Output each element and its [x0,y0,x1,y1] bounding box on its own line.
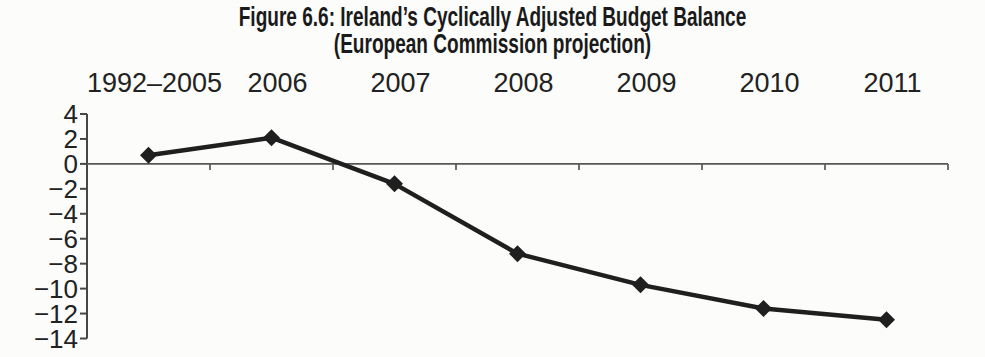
data-point-marker [878,311,895,328]
x-tick-label: 1992–2005 [87,68,222,98]
data-point-marker [263,129,280,146]
y-tick-label: −14 [34,324,78,354]
x-tick-label: 2009 [616,68,676,98]
x-tick-label: 2007 [370,68,430,98]
x-tick-label: 2008 [493,68,553,98]
data-point-marker [140,147,157,164]
x-tick-label: 2011 [863,68,921,98]
data-point-marker [632,276,649,293]
scanned-figure-page: Figure 6.6: Ireland’s Cyclically Adjuste… [0,0,985,357]
data-series-line [149,138,887,320]
x-tick-label: 2006 [247,68,307,98]
data-point-marker [755,300,772,317]
x-tick-label: 2010 [739,68,799,98]
budget-balance-line-chart: 420−2−4−6−8−10−12−141992–200520062007200… [0,0,985,357]
